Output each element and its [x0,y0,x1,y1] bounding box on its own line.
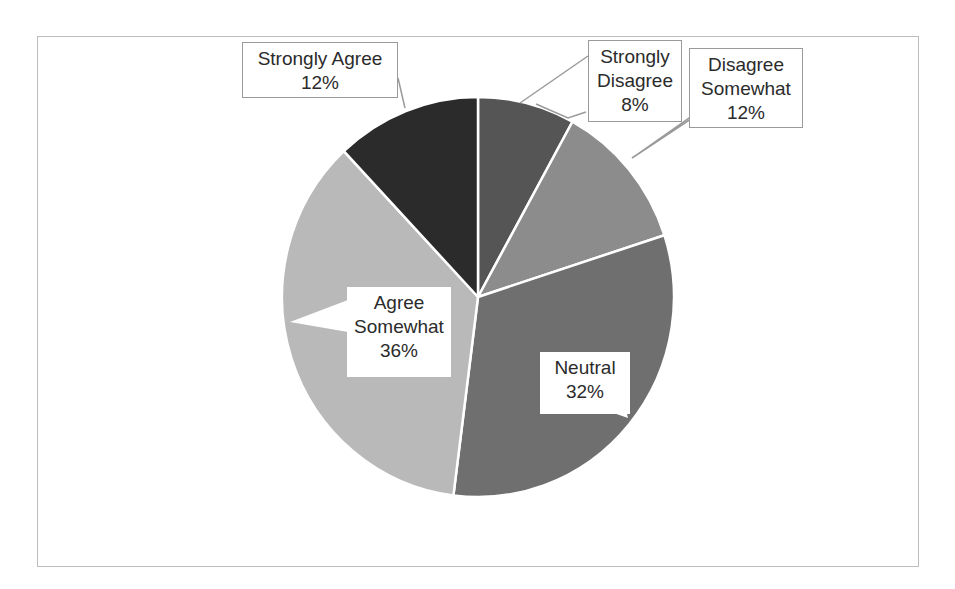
strongly-agree-leader [398,78,405,108]
label-neutral-text: Neutral [540,356,630,380]
label-neutral-pct: 32% [540,380,630,404]
pie-chart [0,0,955,589]
label-strongly-agree: Strongly Agree 12% [242,42,398,98]
label-agree-somewhat-text-1: Agree [347,291,451,315]
label-neutral: Neutral 32% [540,352,630,414]
label-agree-somewhat: Agree Somewhat 36% [347,287,451,377]
label-strongly-disagree-pct: 8% [589,93,681,117]
label-disagree-somewhat-text-1: Disagree [690,53,802,77]
label-disagree-somewhat: Disagree Somewhat 12% [689,48,803,128]
strongly-disagree-leader [520,56,588,103]
label-agree-somewhat-pct: 36% [347,339,451,363]
label-strongly-disagree-text-1: Strongly [589,45,681,69]
label-strongly-agree-pct: 12% [243,71,397,95]
label-disagree-somewhat-pct: 12% [690,101,802,125]
label-strongly-agree-text: Strongly Agree [243,47,397,71]
label-strongly-disagree: Strongly Disagree 8% [588,40,682,122]
label-disagree-somewhat-text-2: Somewhat [690,77,802,101]
pie-slices [282,97,674,497]
label-strongly-disagree-text-2: Disagree [589,69,681,93]
label-agree-somewhat-text-2: Somewhat [347,315,451,339]
